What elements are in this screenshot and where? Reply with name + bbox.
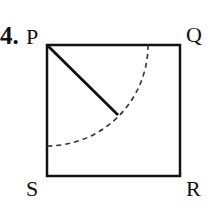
vertex-label-p: P xyxy=(26,24,38,49)
radius-segment xyxy=(47,45,118,115)
vertex-label-s: S xyxy=(26,176,38,201)
problem-number: 4. xyxy=(0,22,19,49)
vertex-label-r: R xyxy=(186,176,201,201)
vertex-label-q: Q xyxy=(186,22,202,47)
geometry-figure: 4. P Q S R xyxy=(0,0,218,208)
